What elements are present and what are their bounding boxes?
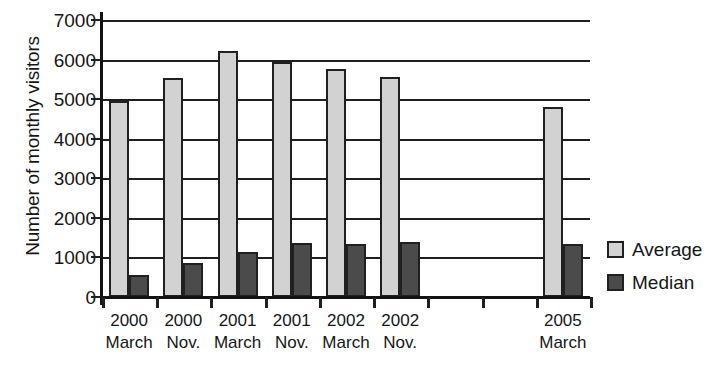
x-axis-label-month: Nov. xyxy=(373,332,427,354)
y-axis-tick-label: 7000 xyxy=(18,11,96,30)
bar-median[interactable] xyxy=(346,244,366,297)
x-axis-tick-marks xyxy=(102,297,590,309)
bar-average[interactable] xyxy=(218,51,238,297)
chart-legend: AverageMedian xyxy=(607,240,716,306)
bar-group[interactable] xyxy=(482,20,536,297)
bar-median[interactable] xyxy=(238,252,258,297)
x-axis-label-month: March xyxy=(536,332,590,354)
x-axis-label-year: 2002 xyxy=(381,311,419,330)
x-axis-tick-mark xyxy=(482,297,485,308)
x-axis-label: 2000Nov. xyxy=(156,310,210,365)
x-axis-label xyxy=(427,310,481,365)
x-axis-label: 2005March xyxy=(536,310,590,365)
y-axis-tick-label: 2000 xyxy=(18,208,96,227)
x-axis-label xyxy=(482,310,536,365)
y-axis-tick-labels: 70006000500040003000200010000 xyxy=(18,0,96,365)
dark-gray-swatch xyxy=(607,274,624,291)
bar-average[interactable] xyxy=(380,77,400,297)
bar-average[interactable] xyxy=(272,62,292,297)
x-axis-label-year: 2001 xyxy=(219,311,257,330)
y-axis-tick-label: 3000 xyxy=(18,169,96,188)
y-axis-tick-label: 0 xyxy=(18,288,96,307)
legend-label: Average xyxy=(632,240,702,259)
light-gray-swatch xyxy=(607,241,624,258)
x-axis-tick-mark xyxy=(265,297,268,308)
bar-group[interactable] xyxy=(319,20,373,297)
y-axis-tick-label: 5000 xyxy=(18,90,96,109)
x-axis-label-year: 2001 xyxy=(273,311,311,330)
x-axis-label-year: 2000 xyxy=(110,311,148,330)
plot-area xyxy=(102,20,590,297)
x-axis-tick-mark xyxy=(210,297,213,308)
bar-group[interactable] xyxy=(536,20,590,297)
x-axis-label-year: 2005 xyxy=(544,311,582,330)
bar-median[interactable] xyxy=(563,244,583,297)
x-axis-tick-mark xyxy=(156,297,159,308)
x-axis-labels: 2000March2000Nov.2001March2001Nov.2002Ma… xyxy=(102,310,590,365)
bar-group[interactable] xyxy=(373,20,427,297)
bar-median[interactable] xyxy=(183,263,203,297)
legend-label: Median xyxy=(632,273,694,292)
x-axis-tick-mark xyxy=(427,297,430,308)
x-axis-label-month: March xyxy=(319,332,373,354)
bar-chart: Number of monthly visitors 7000600050004… xyxy=(0,0,716,365)
x-axis-label: 2001Nov. xyxy=(265,310,319,365)
x-axis-tick-mark xyxy=(102,297,105,308)
x-axis-label: 2000March xyxy=(102,310,156,365)
y-axis-tick-label: 6000 xyxy=(18,50,96,69)
legend-item[interactable]: Average xyxy=(607,240,716,259)
x-axis-label: 2001March xyxy=(210,310,264,365)
x-axis-label-month: March xyxy=(210,332,264,354)
x-axis-tick-mark xyxy=(373,297,376,308)
legend-item[interactable]: Median xyxy=(607,273,716,292)
x-axis-tick-mark xyxy=(536,297,539,308)
bar-group[interactable] xyxy=(427,20,481,297)
x-axis-label-year: 2002 xyxy=(327,311,365,330)
bar-group[interactable] xyxy=(265,20,319,297)
bar-group[interactable] xyxy=(156,20,210,297)
bar-group[interactable] xyxy=(210,20,264,297)
bar-median[interactable] xyxy=(129,275,149,297)
x-axis-label: 2002March xyxy=(319,310,373,365)
bar-average[interactable] xyxy=(326,69,346,297)
y-axis-line xyxy=(100,12,103,305)
x-axis-label-month: Nov. xyxy=(156,332,210,354)
x-axis-label-month: Nov. xyxy=(265,332,319,354)
bar-average[interactable] xyxy=(543,107,563,297)
bar-average[interactable] xyxy=(109,101,129,297)
bar-group[interactable] xyxy=(102,20,156,297)
y-axis-tick-label: 1000 xyxy=(18,248,96,267)
bar-median[interactable] xyxy=(292,243,312,297)
x-axis-tick-mark xyxy=(319,297,322,308)
bars-layer xyxy=(102,20,590,297)
bar-average[interactable] xyxy=(163,78,183,297)
x-axis-label-year: 2000 xyxy=(164,311,202,330)
bar-median[interactable] xyxy=(400,242,420,297)
x-axis-tick-mark xyxy=(590,297,593,308)
x-axis-label-month: March xyxy=(102,332,156,354)
x-axis-label: 2002Nov. xyxy=(373,310,427,365)
y-axis-tick-label: 4000 xyxy=(18,129,96,148)
